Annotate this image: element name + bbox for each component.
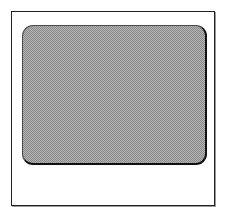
gray-rounded-panel xyxy=(22,25,207,165)
